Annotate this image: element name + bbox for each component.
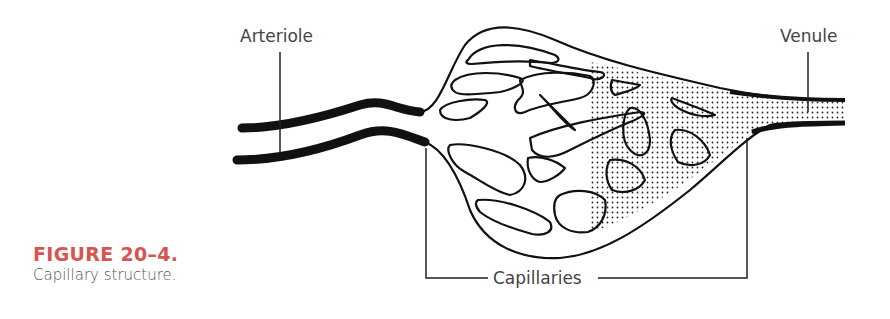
- venule-label: Venule: [780, 26, 838, 46]
- leader-lines: [280, 52, 808, 278]
- arteriole-vessel: [237, 103, 425, 160]
- capillaries-label: Capillaries: [493, 268, 582, 288]
- arteriole-label: Arteriole: [240, 26, 313, 46]
- capillary-diagram: Arteriole Venule Capillaries: [0, 0, 890, 319]
